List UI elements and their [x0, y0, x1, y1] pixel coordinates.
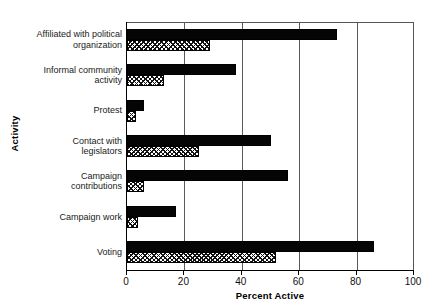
bar-solid	[127, 135, 271, 146]
bar-hatched	[127, 111, 136, 122]
bar-group	[127, 100, 414, 122]
bar-group	[127, 64, 414, 86]
category-label: Contact withlegislators	[6, 136, 122, 157]
bar-solid	[127, 170, 288, 181]
category-label: Voting	[6, 247, 122, 258]
bar-group	[127, 241, 414, 263]
x-axis-tick-label: 20	[163, 276, 203, 287]
x-axis-tick-label: 60	[278, 276, 318, 287]
category-label-line: legislators	[6, 146, 122, 157]
x-axis-title: Percent Active	[126, 290, 414, 301]
category-label: Campaigncontributions	[6, 171, 122, 192]
bar-solid	[127, 241, 374, 252]
category-label-line: Campaign	[6, 171, 122, 182]
bar-group	[127, 135, 414, 157]
category-label-line: Affiliated with political	[6, 29, 122, 40]
bar-solid	[127, 100, 144, 111]
plot-area	[126, 22, 414, 271]
category-label-line: Informal community	[6, 65, 122, 76]
bar-chart: Activity Affiliated with politicalorgani…	[0, 0, 434, 304]
x-axis-tick	[413, 270, 414, 275]
x-axis-tick-label: 100	[393, 276, 433, 287]
x-axis-tick-label: 0	[106, 276, 146, 287]
x-axis-tick	[298, 270, 299, 275]
x-axis-tick	[241, 270, 242, 275]
category-label: Protest	[6, 105, 122, 116]
bar-group	[127, 170, 414, 192]
bar-hatched	[127, 146, 199, 157]
category-label-line: organization	[6, 40, 122, 51]
category-label-line: Voting	[6, 247, 122, 258]
category-label-line: Contact with	[6, 136, 122, 147]
category-label-line: Protest	[6, 105, 122, 116]
bar-hatched	[127, 181, 144, 192]
x-axis-tick-label: 80	[336, 276, 376, 287]
x-axis-tick	[126, 270, 127, 275]
bar-solid	[127, 206, 176, 217]
bar-hatched	[127, 40, 210, 51]
category-label-line: activity	[6, 75, 122, 86]
bar-hatched	[127, 217, 138, 228]
bar-solid	[127, 29, 337, 40]
bar-hatched	[127, 252, 276, 263]
bar-group	[127, 206, 414, 228]
bar-solid	[127, 64, 236, 75]
category-label-line: contributions	[6, 181, 122, 192]
category-label-line: Campaign work	[6, 212, 122, 223]
category-label: Affiliated with politicalorganization	[6, 29, 122, 50]
category-label: Informal communityactivity	[6, 65, 122, 86]
category-label: Campaign work	[6, 212, 122, 223]
x-axis-tick-label: 40	[221, 276, 261, 287]
x-axis-tick	[183, 270, 184, 275]
bar-group	[127, 29, 414, 51]
x-axis-tick	[356, 270, 357, 275]
category-label-column: Affiliated with politicalorganizationInf…	[6, 22, 122, 270]
bar-hatched	[127, 75, 164, 86]
